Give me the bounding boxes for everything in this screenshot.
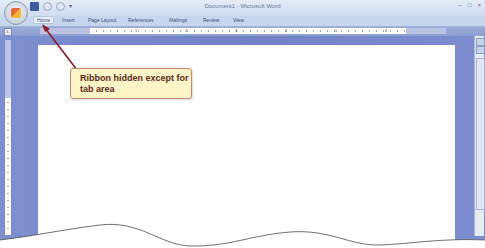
window-title: Document1 - Microsoft Word — [0, 3, 485, 9]
scroll-thumb[interactable] — [476, 58, 485, 210]
ribbon-tab-bar: Home Insert Page Layout References Maili… — [0, 16, 485, 27]
scroll-up-icon[interactable] — [476, 46, 485, 54]
ruler-margin-left — [40, 28, 90, 34]
maximize-button[interactable]: □ — [468, 2, 472, 8]
window-controls: – □ × — [459, 2, 481, 8]
tab-references[interactable]: References — [128, 17, 154, 23]
ruler-number: 5 — [335, 28, 337, 33]
vertical-scrollbar[interactable] — [474, 36, 484, 236]
ruler-number: 1 — [135, 28, 137, 33]
annotation-callout: Ribbon hidden except for tab area — [70, 68, 192, 99]
ruler-number: 4 — [285, 28, 287, 33]
close-button[interactable]: × — [477, 2, 481, 8]
ruler-margin-right — [406, 28, 446, 34]
callout-text: Ribbon hidden except for tab area — [80, 73, 190, 95]
tab-review[interactable]: Review — [203, 17, 219, 23]
office-button[interactable] — [4, 1, 28, 25]
ruler-toggle-icon[interactable] — [476, 38, 485, 46]
office-logo-icon — [11, 8, 21, 18]
tab-view[interactable]: View — [233, 17, 244, 23]
vertical-ruler[interactable] — [5, 40, 11, 235]
ruler-number: 6 — [385, 28, 387, 33]
tab-selector-button[interactable]: L — [4, 28, 12, 36]
horizontal-ruler[interactable]: 1 2 3 4 5 6 — [90, 28, 406, 34]
tab-mailings[interactable]: Mailings — [169, 17, 187, 23]
vertical-ruler-text-area — [5, 98, 11, 235]
ruler-number: 3 — [235, 28, 237, 33]
tab-page-layout[interactable]: Page Layout — [88, 17, 116, 23]
tab-home[interactable]: Home — [33, 16, 54, 24]
title-bar: ▾ Document1 - Microsoft Word – □ × — [0, 0, 485, 16]
tab-insert[interactable]: Insert — [62, 17, 75, 23]
minimize-button[interactable]: – — [459, 2, 462, 8]
horizontal-ruler-bar: L 1 2 3 4 5 6 — [0, 27, 485, 36]
ruler-number: 2 — [185, 28, 187, 33]
